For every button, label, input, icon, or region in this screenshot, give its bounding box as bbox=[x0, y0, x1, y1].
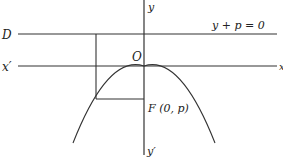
y-axis-pos-label: y bbox=[147, 1, 155, 14]
parabola-diagram: D y + p = 0 x′ x y y′ O F (0, p) bbox=[0, 0, 283, 159]
directrix-equation: y + p = 0 bbox=[211, 19, 265, 32]
origin-label: O bbox=[132, 50, 142, 64]
y-axis-neg-label: y′ bbox=[146, 145, 156, 158]
x-axis-pos-label: x bbox=[279, 61, 283, 72]
x-axis-neg-label: x′ bbox=[2, 60, 12, 74]
focus-label: F (0, p) bbox=[147, 102, 189, 115]
directrix-label: D bbox=[1, 28, 12, 42]
